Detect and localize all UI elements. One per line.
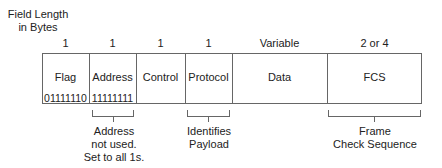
address-bracket <box>92 110 134 117</box>
protocol-note: Identifies Payload <box>175 125 243 151</box>
note-line: Check Sequence <box>324 138 426 151</box>
field-address: Address <box>89 71 136 83</box>
flag-bits: 01111110 <box>42 92 89 104</box>
length-data: Variable <box>232 37 327 49</box>
address-note: Address not used. Set to all 1s. <box>73 125 155 164</box>
field-control: Control <box>136 71 185 83</box>
address-bracket-tick <box>113 117 114 122</box>
fcs-bracket <box>328 110 421 117</box>
note-line: Frame <box>324 125 426 138</box>
field-protocol: Protocol <box>185 71 232 83</box>
field-fcs: FCS <box>327 71 422 83</box>
note-line: not used. <box>73 138 155 151</box>
field-flag: Flag <box>42 71 89 83</box>
fcs-note: Frame Check Sequence <box>324 125 426 151</box>
note-line: Address <box>73 125 155 138</box>
length-flag: 1 <box>42 37 89 49</box>
note-line: Payload <box>175 138 243 151</box>
title-line-2: in Bytes <box>2 21 74 34</box>
field-data: Data <box>232 71 327 83</box>
title-line-1: Field Length <box>2 8 74 21</box>
protocol-bracket <box>187 110 230 117</box>
note-line: Set to all 1s. <box>73 151 155 164</box>
length-protocol: 1 <box>185 37 232 49</box>
length-fcs: 2 or 4 <box>327 37 422 49</box>
length-address: 1 <box>89 37 136 49</box>
address-bits: 11111111 <box>89 92 136 104</box>
fcs-bracket-tick <box>374 117 375 122</box>
length-control: 1 <box>136 37 185 49</box>
field-length-title: Field Length in Bytes <box>2 8 74 34</box>
note-line: Identifies <box>175 125 243 138</box>
protocol-bracket-tick <box>208 117 209 122</box>
